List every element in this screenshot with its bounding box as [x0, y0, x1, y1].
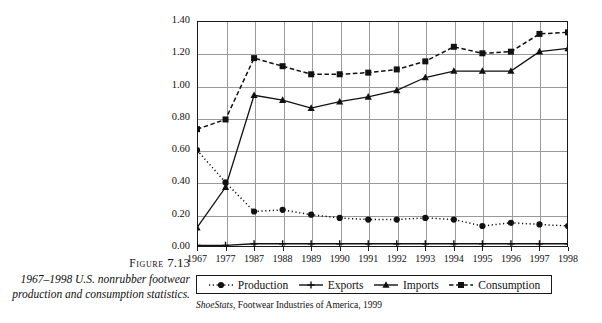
- data-point-marker: [280, 63, 286, 69]
- source-note: ShoeStats, Footwear Industries of Americ…: [196, 300, 382, 310]
- y-axis-tick-label: 0.60: [150, 143, 190, 154]
- y-axis-tick-label: 0.80: [150, 111, 190, 122]
- data-point-marker: [393, 240, 400, 247]
- chart-legend: ProductionExportsImportsConsumption: [196, 275, 552, 294]
- x-axis-tickmark: [368, 247, 369, 251]
- data-point-marker: [197, 147, 200, 153]
- data-point-marker: [450, 240, 457, 247]
- x-axis-tickmark: [311, 247, 312, 251]
- data-point-marker: [422, 215, 428, 221]
- legend-item-consumption[interactable]: Consumption: [448, 279, 540, 291]
- x-axis-tickmark: [511, 247, 512, 251]
- data-point-marker: [536, 240, 543, 247]
- data-point-marker: [365, 70, 371, 76]
- x-axis-tickmark: [254, 247, 255, 251]
- source-rest: , Footwear Industries of America, 1999: [233, 300, 382, 310]
- x-axis-tickmark: [283, 247, 284, 251]
- legend-item-production[interactable]: Production: [208, 279, 288, 291]
- data-point-marker: [507, 240, 514, 247]
- series-line: [197, 48, 568, 227]
- data-point-marker: [536, 221, 542, 227]
- data-point-marker: [250, 240, 257, 247]
- data-point-marker: [337, 71, 343, 77]
- legend-label: Production: [238, 279, 288, 291]
- y-axis-tick-label: 0.00: [150, 240, 190, 251]
- data-point-marker: [479, 223, 485, 229]
- x-axis-tickmark: [425, 247, 426, 251]
- data-point-marker: [451, 216, 457, 222]
- data-point-marker: [365, 240, 372, 247]
- x-axis-tickmark: [197, 247, 198, 251]
- legend-item-exports[interactable]: Exports: [298, 279, 364, 291]
- source-title: ShoeStats: [196, 300, 233, 310]
- data-point-marker: [508, 220, 514, 226]
- legend-swatch-plus-icon: [298, 279, 324, 291]
- data-point-marker: [479, 50, 485, 56]
- series-production: [197, 147, 568, 229]
- data-point-marker: [218, 281, 224, 287]
- data-point-marker: [564, 240, 568, 247]
- data-point-marker: [308, 240, 315, 247]
- legend-label: Exports: [328, 279, 364, 291]
- y-axis-tick-label: 1.00: [150, 79, 190, 90]
- data-point-marker: [251, 55, 257, 61]
- series-layer: [197, 21, 568, 247]
- x-axis-tickmark: [454, 247, 455, 251]
- data-point-marker: [365, 216, 371, 222]
- data-point-marker: [422, 58, 428, 64]
- legend-swatch-square-icon: [448, 279, 474, 291]
- x-axis-tickmark: [568, 247, 569, 251]
- legend-label: Imports: [403, 279, 439, 291]
- x-axis-tickmark: [340, 247, 341, 251]
- y-axis-tick-label: 0.20: [150, 208, 190, 219]
- data-point-marker: [279, 240, 286, 247]
- legend-swatch-circle-icon: [208, 279, 234, 291]
- data-point-marker: [250, 91, 257, 98]
- data-point-marker: [394, 216, 400, 222]
- figure-caption-block: Figure 7.13 1967–1998 U.S. nonrubber foo…: [8, 255, 190, 301]
- figure-caption-text: 1967–1998 U.S. nonrubber footwear produc…: [8, 272, 190, 301]
- data-point-marker: [565, 223, 568, 229]
- y-axis-tick-label: 1.20: [150, 46, 190, 57]
- data-point-marker: [565, 29, 568, 35]
- series-exports: [197, 240, 568, 247]
- x-axis-tickmark: [539, 247, 540, 251]
- y-axis-tick-label: 1.40: [150, 14, 190, 25]
- series-line: [197, 150, 568, 226]
- legend-label: Consumption: [478, 279, 540, 291]
- data-point-marker: [336, 240, 343, 247]
- data-point-marker: [536, 31, 542, 37]
- series-imports: [197, 45, 568, 231]
- legend-item-imports[interactable]: Imports: [373, 279, 439, 291]
- data-point-marker: [337, 215, 343, 221]
- series-line: [197, 32, 568, 129]
- legend-swatch-triangle-icon: [373, 279, 399, 291]
- data-point-marker: [308, 71, 314, 77]
- data-point-marker: [251, 208, 257, 214]
- data-point-marker: [422, 240, 429, 247]
- x-axis-tick-label: 1998: [551, 253, 585, 264]
- data-point-marker: [458, 282, 464, 288]
- data-point-marker: [280, 207, 286, 213]
- data-point-marker: [394, 66, 400, 72]
- data-point-marker: [564, 45, 568, 52]
- x-axis-tickmark: [482, 247, 483, 251]
- figure-label: Figure 7.13: [8, 255, 190, 271]
- data-point-marker: [197, 126, 200, 132]
- x-axis-tickmark: [397, 247, 398, 251]
- figure-label-prefix: Figure: [129, 257, 163, 269]
- data-point-marker: [223, 116, 229, 122]
- data-point-marker: [479, 240, 486, 247]
- data-point-marker: [451, 44, 457, 50]
- data-point-marker: [308, 212, 314, 218]
- data-point-marker: [307, 281, 314, 288]
- chart-container: Billions of Pairs 0.000.200.400.600.801.…: [150, 4, 598, 254]
- y-axis-tick-label: 0.40: [150, 175, 190, 186]
- x-axis-tickmark: [226, 247, 227, 251]
- data-point-marker: [508, 49, 514, 55]
- series-consumption: [197, 29, 568, 132]
